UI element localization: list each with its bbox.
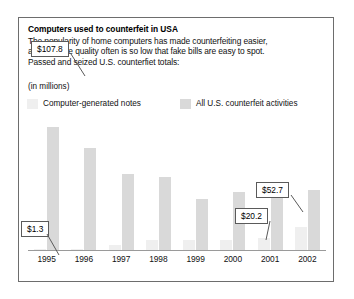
bar-1999-series-2 bbox=[196, 199, 208, 250]
page-title: Computers used to counterfeit in USA bbox=[28, 24, 326, 35]
callout-52-7-leader bbox=[291, 195, 315, 215]
units-note: (in millions) bbox=[28, 82, 69, 91]
x-tick-1999: 1999 bbox=[177, 254, 214, 264]
x-tick-2002: 2002 bbox=[289, 254, 326, 264]
chart-legend: Computer-generated notes All U.S. counte… bbox=[28, 99, 328, 123]
legend-label-all-counterfeit: All U.S. counterfeit activities bbox=[196, 99, 326, 109]
legend-label-computer-generated: Computer-generated notes bbox=[43, 99, 173, 109]
x-tick-2001: 2001 bbox=[252, 254, 289, 264]
chart-panel: Computers used to counterfeit in USA The… bbox=[18, 17, 334, 282]
bar-1999-series-1 bbox=[183, 240, 195, 250]
x-tick-1997: 1997 bbox=[103, 254, 140, 264]
bar-2000-series-1 bbox=[220, 240, 232, 250]
x-tick-2000: 2000 bbox=[214, 254, 251, 264]
bar-group-1998 bbox=[140, 122, 177, 250]
bar-1996-series-1 bbox=[71, 249, 83, 250]
bar-1996-series-2 bbox=[84, 148, 96, 250]
bar-group-2002 bbox=[289, 122, 326, 250]
x-tick-1998: 1998 bbox=[140, 254, 177, 264]
bar-2002-series-1 bbox=[295, 227, 307, 250]
legend-item-all-counterfeit: All U.S. counterfeit activities bbox=[196, 99, 326, 109]
legend-swatch-computer-generated-icon bbox=[27, 99, 38, 109]
bar-group-1997 bbox=[103, 122, 140, 250]
bar-1995-series-1 bbox=[34, 249, 46, 250]
legend-swatch-all-counterfeit-icon bbox=[180, 99, 191, 109]
bar-group-1996 bbox=[65, 122, 102, 250]
callout-1-3: $1.3 bbox=[21, 221, 49, 237]
bar-1997-series-1 bbox=[109, 245, 121, 250]
bar-group-2000 bbox=[214, 122, 251, 250]
bar-1998-series-1 bbox=[146, 240, 158, 250]
callout-20-2: $20.2 bbox=[235, 208, 268, 224]
callout-107-8: $107.8 bbox=[31, 41, 69, 57]
callout-107-8-leader bbox=[71, 54, 101, 78]
callout-52-7: $52.7 bbox=[256, 182, 289, 198]
description-line-1: The popularity of home computers has mad… bbox=[28, 36, 326, 47]
bar-1998-series-2 bbox=[159, 177, 171, 250]
callout-1-3-leader bbox=[47, 234, 73, 258]
legend-item-computer-generated: Computer-generated notes bbox=[43, 99, 173, 109]
callout-20-2-leader bbox=[266, 221, 288, 243]
bar-group-1999 bbox=[177, 122, 214, 250]
bar-1997-series-2 bbox=[122, 174, 134, 250]
